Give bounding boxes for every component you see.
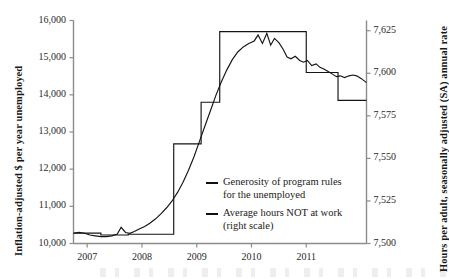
y-axis-left-tick-label: 13,000 — [14, 125, 66, 136]
legend-line-swatch-average-hours — [206, 213, 218, 215]
y-axis-right-tick-label: 7,625 — [374, 24, 418, 35]
cropped-caption-text — [100, 268, 448, 277]
legend-line-swatch-generosity — [206, 182, 218, 184]
y-axis-left-tick-label: 15,000 — [14, 51, 66, 62]
x-axis-tick-label: 2007 — [62, 251, 112, 262]
y-axis-right-tick-label: 7,550 — [374, 151, 418, 162]
x-axis-tick-label: 2010 — [226, 251, 276, 262]
legend-label-average-hours: Average hours NOT at work (right scale) — [223, 207, 342, 232]
y-axis-left-tick-label: 10,000 — [14, 237, 66, 248]
y-axis-left-tick-label: 12,000 — [14, 162, 66, 173]
legend-item-average-hours[interactable]: Average hours NOT at work (right scale) — [206, 207, 356, 232]
y-axis-right-tick-label: 7,500 — [374, 237, 418, 248]
y-axis-right-tick-label: 7,525 — [374, 194, 418, 205]
x-axis-tick-label: 2011 — [281, 251, 331, 262]
y-axis-left-tick-label: 11,000 — [14, 199, 66, 210]
x-axis-tick-label: 2008 — [117, 251, 167, 262]
x-axis-tick-label: 2009 — [172, 251, 222, 262]
y-axis-left-tick-label: 16,000 — [14, 14, 66, 25]
legend-label-generosity: Generosity of program rules for the unem… — [223, 176, 342, 201]
y-axis-right-tick-label: 7,575 — [374, 109, 418, 120]
series-line-generosity — [74, 32, 367, 235]
legend-item-generosity[interactable]: Generosity of program rules for the unem… — [206, 176, 356, 201]
y-axis-right-tick-label: 7,600 — [374, 66, 418, 77]
y-axis-left-tick-label: 14,000 — [14, 88, 66, 99]
